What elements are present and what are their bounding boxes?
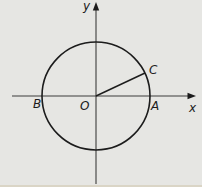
label-x-axis: x	[188, 101, 197, 115]
label-origin: O	[80, 99, 89, 113]
label-point-b: B	[33, 97, 41, 111]
label-point-a: A	[150, 99, 159, 113]
page-edge-strip	[0, 185, 202, 187]
label-y-axis: y	[82, 0, 91, 13]
label-point-c: C	[149, 63, 158, 77]
circle-diagram: y x O B A C	[0, 0, 202, 187]
figure-svg: y x O B A C	[0, 0, 202, 187]
